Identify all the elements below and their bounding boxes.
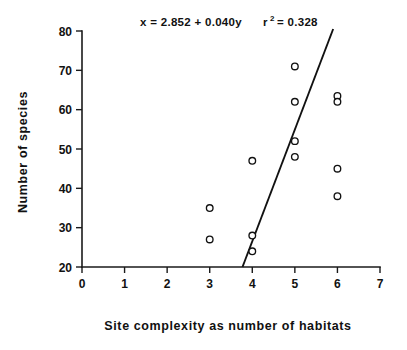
y-axis-title: Number of species [16,91,30,213]
y-axis-tick-label: 20 [59,261,73,275]
r-squared-value-label: = 0.328 [277,16,318,28]
y-axis-tick-label: 40 [59,182,73,196]
r-squared-symbol: r [263,16,268,28]
x-axis-tick-label: 0 [79,277,86,291]
regression-equation-label: x = 2.852 + 0.040y [140,16,242,28]
x-axis-tick-label: 2 [164,277,171,291]
data-point-marker[interactable] [292,99,299,106]
y-axis-tick-label: 60 [59,103,73,117]
data-point-marker[interactable] [249,158,256,165]
x-axis-tick-label: 6 [334,277,341,291]
x-axis-tick-label: 4 [249,277,256,291]
x-axis-tick-label: 3 [206,277,213,291]
r-squared-exponent: 2 [270,14,275,23]
scatter-plot-figure: 2030405060708001234567x = 2.852 + 0.040y… [0,0,407,350]
y-axis-tick-label: 50 [59,143,73,157]
data-point-marker[interactable] [206,236,213,243]
data-point-marker[interactable] [206,205,213,212]
regression-line [242,29,333,267]
data-point-marker[interactable] [334,193,341,200]
data-point-marker[interactable] [249,232,256,239]
data-point-marker[interactable] [334,165,341,172]
data-point-marker[interactable] [292,138,299,145]
y-axis-tick-label: 30 [59,221,73,235]
x-axis-tick-label: 1 [121,277,128,291]
data-point-marker[interactable] [292,63,299,70]
data-point-marker[interactable] [292,154,299,161]
x-axis-title: Site complexity as number of habitats [104,319,351,333]
data-point-marker[interactable] [249,248,256,255]
chart-canvas: 2030405060708001234567x = 2.852 + 0.040y… [0,0,407,350]
data-point-marker[interactable] [334,99,341,106]
x-axis-tick-label: 5 [292,277,299,291]
x-axis-tick-label: 7 [377,277,384,291]
y-axis-tick-label: 80 [59,25,73,39]
y-axis-tick-label: 70 [59,64,73,78]
